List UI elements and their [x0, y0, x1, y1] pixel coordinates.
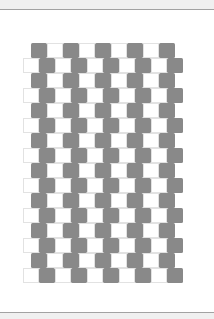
light-tile [55, 148, 71, 163]
light-tile [143, 163, 159, 178]
light-tile [119, 58, 135, 73]
dark-tile [63, 43, 79, 58]
light-tile [47, 163, 63, 178]
tile-row [31, 133, 175, 148]
light-tile [55, 58, 71, 73]
dark-tile [135, 178, 151, 193]
tile-row [31, 103, 175, 118]
bottom-frame-bar [0, 312, 214, 319]
dark-tile [159, 223, 175, 238]
dark-tile [39, 268, 55, 283]
dark-tile [167, 178, 183, 193]
dark-tile [159, 193, 175, 208]
light-tile [87, 208, 103, 223]
light-tile [79, 163, 95, 178]
dark-tile [103, 88, 119, 103]
dark-tile [167, 238, 183, 253]
light-tile [23, 148, 39, 163]
light-tile [111, 193, 127, 208]
light-tile [119, 148, 135, 163]
tile-row [31, 253, 175, 268]
dark-tile [63, 133, 79, 148]
light-tile [151, 118, 167, 133]
dark-tile [159, 253, 175, 268]
light-tile [23, 178, 39, 193]
light-tile [151, 58, 167, 73]
light-tile [87, 148, 103, 163]
tile-row [31, 73, 175, 88]
dark-tile [71, 88, 87, 103]
dark-tile [167, 58, 183, 73]
dark-tile [127, 193, 143, 208]
dark-tile [103, 58, 119, 73]
light-tile [47, 103, 63, 118]
dark-tile [103, 178, 119, 193]
light-tile [151, 268, 167, 283]
tile-row [31, 193, 175, 208]
dark-tile [63, 223, 79, 238]
light-tile [87, 238, 103, 253]
light-tile [23, 88, 39, 103]
dark-tile [135, 148, 151, 163]
dark-tile [95, 163, 111, 178]
dark-tile [135, 208, 151, 223]
light-tile [79, 103, 95, 118]
light-tile [23, 268, 39, 283]
dark-tile [39, 58, 55, 73]
dark-tile [159, 103, 175, 118]
dark-tile [103, 148, 119, 163]
light-tile [23, 208, 39, 223]
dark-tile [39, 148, 55, 163]
dark-tile [31, 103, 47, 118]
dark-tile [127, 253, 143, 268]
dark-tile [135, 238, 151, 253]
light-tile [143, 223, 159, 238]
light-tile [143, 73, 159, 88]
dark-tile [31, 253, 47, 268]
tile-row [23, 88, 183, 103]
light-tile [151, 148, 167, 163]
light-tile [119, 178, 135, 193]
light-tile [55, 238, 71, 253]
tile-row [23, 58, 183, 73]
light-tile [87, 118, 103, 133]
dark-tile [63, 73, 79, 88]
dark-tile [39, 88, 55, 103]
dark-tile [135, 268, 151, 283]
dark-tile [71, 58, 87, 73]
dark-tile [31, 163, 47, 178]
dark-tile [63, 163, 79, 178]
tile-row [23, 178, 183, 193]
light-tile [87, 88, 103, 103]
dark-tile [95, 103, 111, 118]
dark-tile [31, 43, 47, 58]
dark-tile [127, 133, 143, 148]
dark-tile [127, 73, 143, 88]
dark-tile [135, 118, 151, 133]
tile-row [31, 223, 175, 238]
light-tile [47, 253, 63, 268]
light-tile [87, 268, 103, 283]
dark-tile [71, 118, 87, 133]
tile-row [23, 238, 183, 253]
light-tile [143, 103, 159, 118]
light-tile [111, 253, 127, 268]
dark-tile [31, 73, 47, 88]
light-tile [79, 223, 95, 238]
light-tile [55, 268, 71, 283]
light-tile [151, 238, 167, 253]
light-tile [47, 223, 63, 238]
light-tile [151, 208, 167, 223]
light-tile [55, 88, 71, 103]
dark-tile [167, 118, 183, 133]
dark-tile [95, 193, 111, 208]
light-tile [47, 133, 63, 148]
light-tile [23, 118, 39, 133]
tile-row [31, 163, 175, 178]
dark-tile [71, 178, 87, 193]
dark-tile [103, 118, 119, 133]
light-tile [143, 253, 159, 268]
dark-tile [95, 253, 111, 268]
light-tile [23, 58, 39, 73]
